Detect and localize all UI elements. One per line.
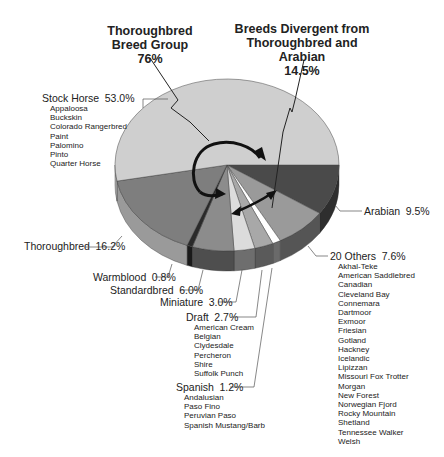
slice-side <box>273 241 281 264</box>
leader-line <box>308 246 328 256</box>
label-pct: 1.2% <box>220 381 244 393</box>
label-pct: 6.0% <box>179 284 203 296</box>
group-value: 14.5% <box>222 64 382 78</box>
breed-item: Andalusian <box>176 393 265 402</box>
breed-item: Spanish Mustang/Barb <box>176 421 265 430</box>
label-name: Warmblood <box>93 271 146 283</box>
label-name: 20 Others <box>330 250 376 262</box>
label-stock-horse: Stock Horse 53.0% AppaloosaBuckskinColor… <box>42 93 135 168</box>
breed-item: Percheron <box>186 351 254 360</box>
label-arabian: Arabian 9.5% <box>364 206 430 217</box>
breed-item: Rocky Mountain <box>330 409 415 418</box>
breed-item: Shetland <box>330 418 415 427</box>
group-title-line1: Thoroughbred <box>84 24 216 38</box>
breed-item: Norwegian Fjord <box>330 400 415 409</box>
label-draft: Draft 2.7% American CreamBelgianClydesda… <box>186 312 254 378</box>
label-pct: 0.8% <box>152 271 176 283</box>
label-name: Standardbred <box>110 284 174 296</box>
breed-item: Lipizzan <box>330 363 415 372</box>
breed-item: Colorado Rangerbred <box>42 122 135 131</box>
breed-item: Morgan <box>330 382 415 391</box>
breed-item: Pinto <box>42 150 135 159</box>
breed-item: Akhal-Teke <box>330 262 415 271</box>
breed-item: American Saddlebred <box>330 271 415 280</box>
breed-item: Appaloosa <box>42 104 135 113</box>
label-standardbred: Standardbred 6.0% <box>110 285 203 296</box>
label-warmblood: Warmblood 0.8% <box>93 272 176 283</box>
label-spanish: Spanish 1.2% AndalusianPaso FinoPeruvian… <box>176 382 265 430</box>
breed-item: Connemara <box>330 299 415 308</box>
label-pct: 9.5% <box>406 205 430 217</box>
label-pct: 3.0% <box>209 296 233 308</box>
label-pct: 7.6% <box>382 250 406 262</box>
breed-item: American Cream <box>186 323 254 332</box>
label-name: Spanish <box>176 381 214 393</box>
breed-list: AppaloosaBuckskinColorado RangerbredPain… <box>42 104 135 168</box>
label-name: Stock Horse <box>42 92 99 104</box>
breed-item: Exmoor <box>330 317 415 326</box>
breed-list: Akhal-TekeAmerican SaddlebredCanadianCle… <box>330 262 415 446</box>
label-20-others: 20 Others 7.6% Akhal-TekeAmerican Saddle… <box>330 251 415 446</box>
slice-side <box>234 248 255 271</box>
breed-item: Welsh <box>330 437 415 446</box>
slice-side <box>187 245 192 266</box>
breed-item: Quarter Horse <box>42 159 135 168</box>
label-name: Thoroughbred <box>24 240 90 252</box>
breed-item: Peruvian Paso <box>176 411 265 420</box>
leader-line <box>232 270 262 317</box>
breed-item: Dartmoor <box>330 308 415 317</box>
group-title-divergent: Breeds Divergent from Thoroughbred and A… <box>222 22 382 78</box>
group-value: 76% <box>84 52 216 66</box>
breed-item: Gotland <box>330 336 415 345</box>
group-title-thoroughbred: Thoroughbred Breed Group 76% <box>84 24 216 66</box>
group-title-line2: Breed Group <box>84 38 216 52</box>
breed-item: Shire <box>186 360 254 369</box>
label-miniature: Miniature 3.0% <box>160 297 233 308</box>
label-pct: 2.7% <box>214 311 238 323</box>
breed-item: Buckskin <box>42 113 135 122</box>
breed-item: Friesian <box>330 326 415 335</box>
label-pct: 16.2% <box>96 240 126 252</box>
group-title-line1: Breeds Divergent from <box>222 22 382 36</box>
leader-line <box>335 205 362 211</box>
label-name: Miniature <box>160 296 203 308</box>
breed-item: Clydesdale <box>186 341 254 350</box>
label-pct: 53.0% <box>105 92 135 104</box>
breed-item: Hackney <box>330 345 415 354</box>
breed-item: Missouri Fox Trotter <box>330 372 415 381</box>
label-thoroughbred: Thoroughbred 16.2% <box>24 241 125 252</box>
breed-item: Cleveland Bay <box>330 290 415 299</box>
breed-item: Canadian <box>330 280 415 289</box>
breed-item: New Forest <box>330 391 415 400</box>
label-name: Arabian <box>364 205 400 217</box>
breed-list: AndalusianPaso FinoPeruvian PasoSpanish … <box>176 393 265 430</box>
breed-item: Paint <box>42 132 135 141</box>
breed-item: Paso Fino <box>176 402 265 411</box>
breed-item: Icelandic <box>330 354 415 363</box>
breed-item: Palomino <box>42 141 135 150</box>
breed-list: American CreamBelgianClydesdalePercheron… <box>186 323 254 378</box>
label-name: Draft <box>186 311 209 323</box>
breed-item: Belgian <box>186 332 254 341</box>
breed-item: Suffolk Punch <box>186 369 254 378</box>
breed-item: Tennessee Walker <box>330 428 415 437</box>
group-title-line2: Thoroughbred and Arabian <box>222 36 382 64</box>
